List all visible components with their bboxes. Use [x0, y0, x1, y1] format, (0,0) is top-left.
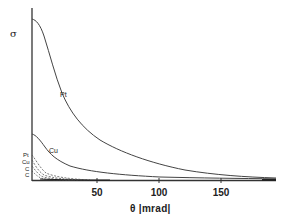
curve-pt: [32, 19, 276, 178]
chart-plot-area: [0, 0, 286, 223]
x-tick-label-150: 150: [213, 187, 230, 198]
curve-pt-dashed: [32, 155, 90, 180]
y-axis-label: σ: [10, 28, 17, 39]
x-tick-label-100: 100: [151, 187, 168, 198]
curve-label-pt: Pt: [60, 91, 67, 98]
dashed-label-c2: C: [25, 172, 29, 178]
curve-label-cu: Cu: [49, 147, 58, 154]
dashed-label-cu: Cu: [22, 159, 30, 165]
x-axis-label: θ |mrad|: [130, 203, 171, 214]
dashed-label-pt: Pt: [23, 152, 29, 158]
curve-cu: [32, 134, 276, 179]
x-tick-label-50: 50: [91, 187, 102, 198]
